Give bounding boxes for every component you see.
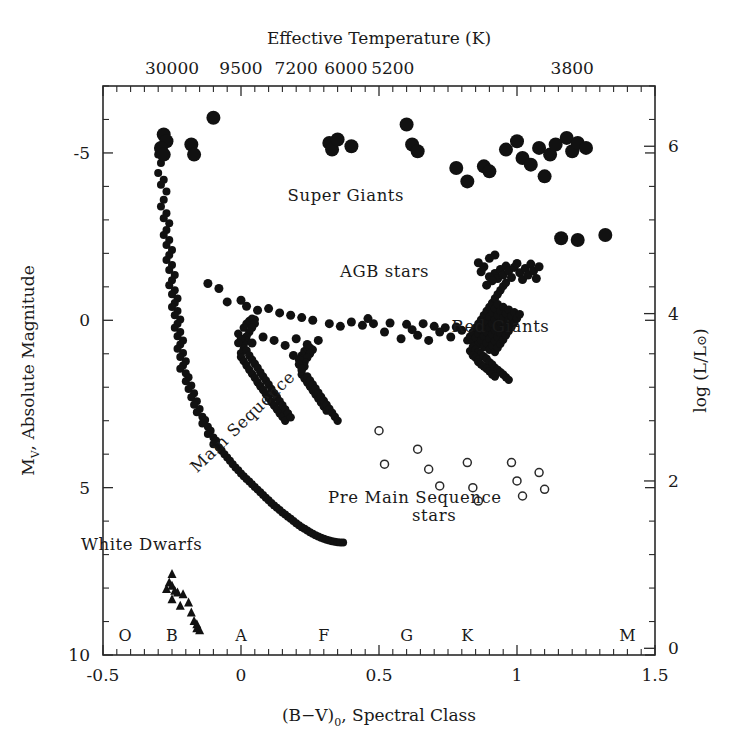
data-point <box>157 181 165 189</box>
data-point <box>253 306 262 315</box>
data-point <box>187 148 201 162</box>
data-point <box>482 281 491 290</box>
x-tick-label: 1 <box>512 665 523 685</box>
data-point <box>386 318 395 327</box>
data-point <box>449 161 463 175</box>
data-point-open <box>541 485 549 493</box>
data-point <box>524 158 538 172</box>
data-point <box>157 148 171 162</box>
data-point <box>331 133 345 147</box>
data-point <box>460 174 474 188</box>
data-point <box>223 297 232 306</box>
data-point <box>535 262 544 271</box>
data-point <box>336 322 345 331</box>
data-point <box>507 273 516 282</box>
data-point <box>286 413 294 421</box>
data-point <box>554 231 568 245</box>
data-point <box>598 228 612 242</box>
data-point <box>214 284 223 293</box>
data-point <box>206 111 220 125</box>
spectral-class-letter: A <box>234 626 247 645</box>
data-point <box>424 336 433 345</box>
y-tick-label: 10 <box>68 645 90 665</box>
hr-diagram-figure: -0.500.511.5-505106420300009500720060005… <box>0 0 737 750</box>
data-point-open <box>381 460 389 468</box>
data-point <box>474 258 483 267</box>
data-point <box>297 313 306 322</box>
data-point <box>579 141 593 155</box>
data-point <box>333 417 341 425</box>
data-point <box>203 279 212 288</box>
data-point-open <box>375 427 383 435</box>
top-tick-label: 9500 <box>219 58 262 78</box>
data-point <box>380 328 389 337</box>
x-tick-label: 1.5 <box>641 665 668 685</box>
right-tick-label: 4 <box>668 304 679 324</box>
y-tick-label: 0 <box>79 310 90 330</box>
data-point <box>499 143 513 157</box>
data-point <box>363 314 372 323</box>
data-point <box>339 539 347 547</box>
data-point <box>505 376 513 384</box>
right-tick-label: 6 <box>668 136 679 156</box>
spectral-class-letter: F <box>318 626 329 645</box>
spectral-class-letter: M <box>619 626 635 645</box>
top-axis-title: Effective Temperature (K) <box>267 28 491 48</box>
data-point <box>482 164 496 178</box>
annotation-super-giants: Super Giants <box>288 186 405 205</box>
data-point <box>408 325 417 334</box>
right-tick-label: 2 <box>668 471 679 491</box>
data-point-open <box>414 445 422 453</box>
x-tick-label: 0.5 <box>365 665 392 685</box>
data-point <box>347 317 356 326</box>
data-point <box>314 336 323 345</box>
spectral-class-letter: B <box>166 626 178 645</box>
data-point <box>325 319 334 328</box>
data-point <box>286 311 295 320</box>
y-tick-label: 5 <box>79 478 90 498</box>
right-tick-label: 0 <box>668 638 679 658</box>
data-point <box>292 334 301 343</box>
annotation-white-dwarfs: White Dwarfs <box>81 535 202 554</box>
data-point <box>298 364 306 372</box>
data-point <box>289 351 298 360</box>
data-point <box>538 169 552 183</box>
data-point <box>270 336 279 345</box>
data-point-open <box>463 459 471 467</box>
top-tick-label: 30000 <box>145 58 199 78</box>
data-point-open <box>507 459 515 467</box>
spectral-class-letter: G <box>400 626 413 645</box>
data-point <box>259 333 268 342</box>
data-point <box>491 372 499 380</box>
data-point-open <box>425 465 433 473</box>
annotation-pre-main-sequence: Pre Main Sequence <box>328 488 502 507</box>
data-point <box>532 274 541 283</box>
data-point <box>308 316 317 325</box>
y-tick-label: -5 <box>73 143 90 163</box>
annotation-red-giants: Red Giants <box>451 317 549 336</box>
top-tick-label: 3800 <box>551 58 594 78</box>
data-point <box>248 339 257 348</box>
data-point <box>157 202 165 210</box>
data-point <box>419 319 428 328</box>
data-point <box>400 117 414 131</box>
top-tick-label: 5200 <box>371 58 414 78</box>
annotation-agb-stars: AGB stars <box>339 262 429 281</box>
x-tick-label: 0 <box>236 665 247 685</box>
data-point <box>275 308 284 317</box>
data-point <box>490 251 499 260</box>
spectral-class-letter: K <box>461 626 474 645</box>
data-point <box>510 134 524 148</box>
data-point <box>154 169 162 177</box>
data-point-open <box>535 469 543 477</box>
data-point <box>234 339 242 347</box>
data-point <box>237 296 246 305</box>
annotation-pre-main-sequence-2: stars <box>412 506 456 525</box>
top-tick-label: 7200 <box>275 58 318 78</box>
data-point <box>435 328 444 337</box>
data-point <box>303 340 312 349</box>
data-point-open <box>513 477 521 485</box>
data-point <box>513 259 522 268</box>
data-point <box>281 341 290 350</box>
spectral-class-letter: O <box>119 626 132 645</box>
